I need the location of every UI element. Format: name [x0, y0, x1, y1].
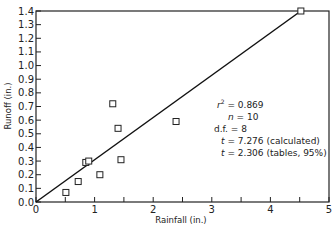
x-axis: 012345 — [33, 197, 332, 215]
y-axis-label: Runoff (in.) — [3, 82, 13, 129]
data-point-square — [75, 179, 81, 185]
r-squared-label: r2 = 0.869 — [217, 98, 264, 110]
plot-frame — [36, 11, 329, 202]
scatter-chart: 0.00.10.20.30.40.50.60.70.80.91.01.11.21… — [0, 0, 334, 229]
x-tick-label: 3 — [209, 204, 215, 215]
x-tick-label: 1 — [91, 204, 97, 215]
y-tick-label: 1.1 — [18, 46, 34, 57]
t-tables-label: t = 2.306 (tables, 95%) — [221, 148, 327, 158]
y-tick-label: 0.5 — [18, 128, 34, 139]
y-tick-label: 1.2 — [18, 33, 34, 44]
y-tick-label: 0.7 — [18, 101, 34, 112]
y-tick-label: 0.4 — [18, 142, 34, 153]
n-label: n = 10 — [228, 112, 259, 122]
y-tick-label: 1.0 — [18, 60, 34, 71]
data-points — [63, 8, 304, 195]
y-axis: 0.00.10.20.30.40.50.60.70.80.91.01.11.21… — [18, 6, 41, 208]
data-point-square — [97, 172, 103, 178]
data-point-square — [63, 189, 69, 195]
y-tick-label: 0.1 — [18, 183, 34, 194]
stats-annotation: r2 = 0.869 n = 10 d.f. = 8 t = 7.276 (ca… — [214, 98, 327, 158]
y-tick-label: 0.6 — [18, 115, 34, 126]
t-calculated-label: t = 7.276 (calculated) — [221, 136, 320, 146]
data-point-square — [115, 125, 121, 131]
y-tick-label: 0.3 — [18, 156, 34, 167]
x-tick-label: 4 — [267, 204, 273, 215]
df-label: d.f. = 8 — [214, 124, 247, 134]
plot-border — [36, 11, 329, 202]
data-point-square — [110, 101, 116, 107]
x-axis-label: Rainfall (in.) — [155, 215, 206, 225]
y-tick-label: 0.2 — [18, 169, 34, 180]
data-point-square — [118, 157, 124, 163]
y-tick-label: 0.8 — [18, 87, 34, 98]
data-point-square — [173, 119, 179, 125]
y-tick-label: 0.0 — [18, 197, 34, 208]
data-point-square — [298, 8, 304, 14]
x-tick-label: 0 — [33, 204, 39, 215]
x-tick-label: 2 — [150, 204, 156, 215]
y-tick-label: 1.3 — [18, 19, 34, 30]
x-tick-label: 5 — [326, 204, 332, 215]
data-point-square — [86, 158, 92, 164]
y-tick-label: 0.9 — [18, 74, 34, 85]
y-tick-label: 1.4 — [18, 6, 34, 17]
